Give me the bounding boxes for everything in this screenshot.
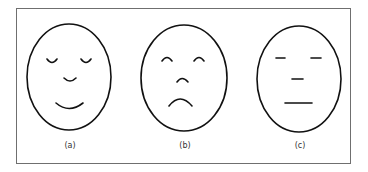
face-c-label: (c) bbox=[280, 141, 320, 150]
face-b-mouth-frown bbox=[169, 99, 192, 106]
face-b-label: (b) bbox=[165, 141, 205, 150]
face-sad bbox=[141, 25, 227, 131]
face-a-outline bbox=[27, 24, 111, 130]
face-a-label: (a) bbox=[50, 141, 90, 150]
face-a-nose bbox=[64, 78, 76, 81]
face-a-mouth-smile bbox=[56, 103, 83, 109]
face-b-left-eye bbox=[162, 58, 172, 62]
face-b-right-eye bbox=[194, 58, 204, 62]
face-happy bbox=[27, 24, 111, 130]
face-a-left-eye bbox=[47, 59, 57, 63]
face-a-right-eye bbox=[81, 59, 91, 63]
face-neutral bbox=[257, 26, 341, 132]
face-b-nose bbox=[177, 79, 188, 83]
